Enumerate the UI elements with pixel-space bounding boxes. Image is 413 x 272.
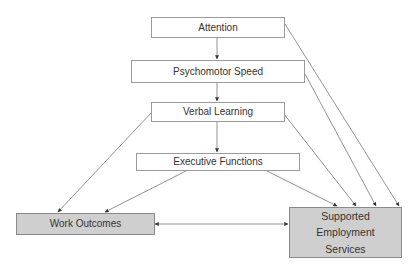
node-supported-line1: Supported (321, 208, 369, 224)
node-supported-employment-services: Supported Employment Services (289, 207, 402, 258)
node-supported-line2: Employment (316, 224, 374, 240)
node-psychomotor-speed: Psychomotor Speed (131, 60, 305, 83)
edge-executive-work (105, 171, 186, 212)
node-work-label: Work Outcomes (50, 217, 122, 231)
node-verbal-learning: Verbal Learning (151, 102, 285, 122)
node-attention-label: Attention (198, 21, 237, 35)
node-supported-line3: Services (325, 241, 365, 257)
node-executive-label: Executive Functions (173, 155, 263, 169)
edge-attention-supported (285, 24, 399, 206)
edge-executive-supported (267, 171, 337, 206)
node-work-outcomes: Work Outcomes (16, 213, 155, 235)
node-verbal-label: Verbal Learning (183, 105, 253, 119)
node-executive-functions: Executive Functions (136, 153, 300, 171)
node-psychomotor-label: Psychomotor Speed (173, 65, 263, 79)
node-attention: Attention (151, 17, 285, 38)
